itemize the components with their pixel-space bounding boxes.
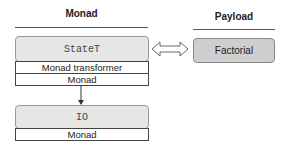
payload-divider [193,29,275,30]
io-box: IO [15,105,149,129]
monad-column-title: Monad [15,8,148,19]
statet-monad-label: Monad [67,74,96,85]
io-label: IO [76,112,88,123]
monad-transformer-label: Monad transformer [42,62,122,73]
statet-label: StateT [64,44,100,55]
arrow-down-icon [76,85,86,106]
io-monad-label: Monad [67,129,96,140]
factorial-label: Factorial [215,45,253,56]
double-arrow-icon [151,40,189,58]
monad-divider [15,27,148,28]
payload-column-title: Payload [193,11,275,22]
statet-box: StateT [15,36,149,62]
io-monad-label-box: Monad [15,128,149,141]
factorial-box: Factorial [193,38,275,63]
